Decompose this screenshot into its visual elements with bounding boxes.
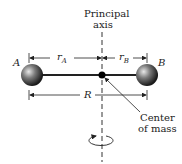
- center-of-mass-dot: [99, 72, 106, 79]
- com-label-line2: of mass: [138, 124, 177, 134]
- axis-label-line2: axis: [93, 20, 113, 30]
- r-a-label: rA: [57, 52, 67, 66]
- axis-label-line1: Principal: [84, 9, 130, 19]
- mass-b-label: B: [158, 58, 165, 68]
- R-label: R: [84, 90, 92, 100]
- mass-a-sphere: [21, 64, 43, 86]
- rotation-arrow-icon: [89, 136, 113, 146]
- dumbbell-diagram: [0, 0, 182, 164]
- r-b-label: rB: [119, 52, 129, 66]
- com-label-line1: Center: [140, 113, 175, 123]
- mass-b-sphere: [136, 64, 158, 86]
- mass-a-label: A: [13, 58, 20, 68]
